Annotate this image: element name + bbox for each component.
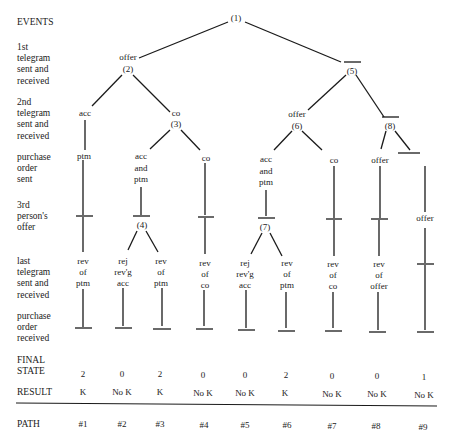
lt-line: of: [280, 269, 294, 280]
node-8: (8): [385, 121, 396, 132]
edge-4-rej: [128, 231, 137, 250]
edge-1-2: [139, 22, 228, 58]
node-1: (1): [231, 13, 242, 24]
edge-5-8: [356, 75, 384, 117]
result-8: No K: [367, 389, 387, 400]
path-9: #9: [419, 422, 428, 433]
result-2: No K: [112, 387, 132, 398]
lt-line: co: [327, 281, 339, 292]
lt-line: rev: [280, 258, 294, 269]
result-7: No K: [322, 389, 342, 400]
lt-line: co: [199, 280, 211, 291]
edge-3-accptm: [150, 130, 170, 149]
node-2-event: offer: [119, 52, 136, 63]
node-line: acc: [134, 151, 148, 163]
edge-6-accptm: [274, 131, 292, 150]
final-state-6: 2: [284, 370, 289, 381]
edge-7-rev: [270, 233, 282, 256]
edge-4-rev: [146, 231, 158, 252]
lt-line: acc: [114, 278, 132, 289]
node-co-4: co: [202, 153, 211, 164]
final-state-4: 0: [201, 370, 206, 381]
last-telegram-5: rej rev'g acc: [236, 258, 254, 291]
lt-line: rev: [327, 259, 339, 270]
final-state-2: 0: [120, 369, 125, 380]
last-telegram-6: rev of ptm: [280, 258, 294, 291]
path-7: #7: [328, 421, 337, 432]
lt-line: rev'g: [114, 267, 132, 278]
node-ptm: ptm: [77, 151, 91, 162]
result-1: K: [80, 387, 87, 398]
node-4: (4): [137, 220, 148, 231]
final-state-9: 1: [422, 372, 427, 383]
last-telegram-1: rev of ptm: [76, 256, 90, 289]
lt-line: of: [199, 269, 211, 280]
result-3: K: [157, 387, 164, 398]
lt-line: ptm: [154, 278, 168, 289]
path-4: #4: [200, 420, 209, 431]
node-line: and: [134, 163, 148, 175]
final-state-7: 0: [330, 371, 335, 382]
lt-line: rej: [236, 258, 254, 269]
node-3: (3): [171, 119, 182, 130]
edge-8-offer: [381, 131, 386, 149]
edge-3-co: [181, 130, 200, 150]
last-telegram-3: rev of ptm: [154, 256, 168, 289]
last-telegram-2: rej rev'g acc: [114, 256, 132, 289]
path-5: #5: [241, 420, 250, 431]
path-2: #2: [118, 419, 127, 430]
final-state-8: 0: [375, 371, 380, 382]
path-divider: [16, 403, 437, 406]
node-7: (7): [260, 222, 271, 233]
node-2: (2): [123, 64, 134, 75]
lt-line: rej: [114, 256, 132, 267]
lt-line: rev: [76, 256, 90, 267]
decision-tree-lines: [0, 0, 453, 447]
edge-6-co: [302, 131, 322, 150]
result-6: K: [282, 388, 289, 399]
node-offer-8: offer: [371, 155, 388, 166]
lt-line: rev'g: [236, 269, 254, 280]
node-6: (6): [292, 121, 303, 132]
lt-line: ptm: [280, 280, 294, 291]
node-co-7: co: [330, 155, 339, 166]
node-line: ptm: [259, 177, 273, 189]
final-state-5: 0: [243, 370, 248, 381]
node-acc: acc: [79, 108, 91, 119]
result-4: No K: [193, 388, 213, 399]
edge-5-6: [308, 75, 346, 110]
lt-line: of: [76, 267, 90, 278]
lt-line: acc: [236, 280, 254, 291]
node-acc-and-ptm-6: acc and ptm: [259, 154, 273, 189]
node-line: and: [259, 166, 273, 178]
final-state-3: 2: [158, 369, 163, 380]
path-8: #8: [372, 421, 381, 432]
lt-line: ptm: [76, 278, 90, 289]
lt-line: rev: [370, 259, 387, 270]
lt-line: offer: [370, 281, 387, 292]
last-telegram-4: rev of co: [199, 258, 211, 291]
path-1: #1: [79, 419, 88, 430]
node-3-event: co: [172, 108, 181, 119]
last-telegram-8: rev of offer: [370, 259, 387, 292]
node-line: ptm: [134, 174, 148, 186]
node-6-event: offer: [288, 109, 305, 120]
edge-2-acc: [92, 75, 122, 106]
result-9: No K: [414, 390, 434, 401]
edge-1-5: [245, 22, 341, 62]
edge-8-blank: [395, 131, 410, 150]
edge-7-rej: [251, 233, 262, 254]
last-telegram-7: rev of co: [327, 259, 339, 292]
node-offer-9: offer: [416, 213, 433, 224]
node-acc-and-ptm-3: acc and ptm: [134, 151, 148, 186]
result-5: No K: [235, 388, 255, 399]
final-state-1: 2: [81, 369, 86, 380]
lt-line: rev: [154, 256, 168, 267]
node-line: acc: [259, 154, 273, 166]
lt-line: of: [370, 270, 387, 281]
lt-line: of: [154, 267, 168, 278]
lt-line: rev: [199, 258, 211, 269]
path-3: #3: [156, 419, 165, 430]
path-6: #6: [283, 420, 292, 431]
node-5: (5): [347, 66, 358, 77]
